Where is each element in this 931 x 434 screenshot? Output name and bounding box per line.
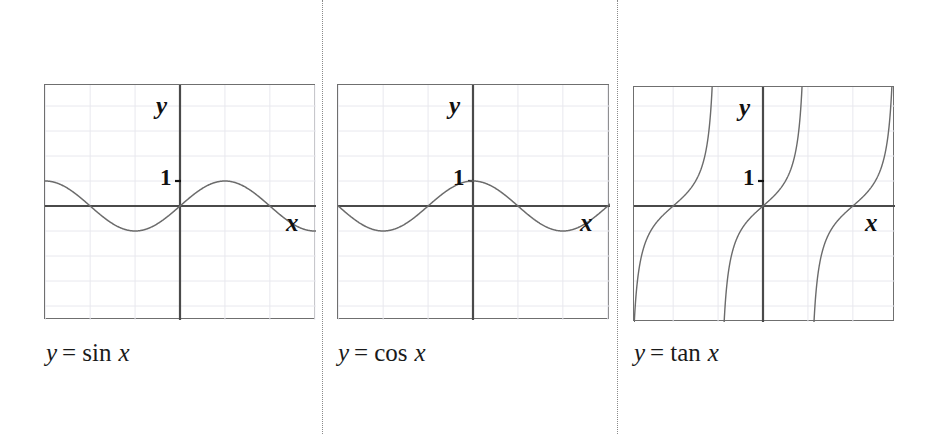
caption-sine-equals: = xyxy=(62,339,76,366)
y-tick-label-one-tangent: 1 xyxy=(743,166,755,189)
x-axis-label-tangent: x xyxy=(865,210,878,235)
caption-sine: y=sinx xyxy=(46,340,130,365)
plot-svg-sine xyxy=(45,85,316,320)
caption-cosine-equals: = xyxy=(354,339,368,366)
y-axis-label-sine: y xyxy=(156,93,167,118)
caption-tangent: y=tanx xyxy=(634,340,719,365)
y-tick-label-one-sine: 1 xyxy=(160,166,172,189)
caption-cosine-y: y xyxy=(338,339,349,366)
y-axis-label-tangent: y xyxy=(739,95,750,120)
caption-tangent-equals: = xyxy=(650,339,664,366)
caption-sine-x: x xyxy=(118,339,129,366)
caption-sine-y: y xyxy=(46,339,57,366)
caption-tangent-x: x xyxy=(708,339,719,366)
x-axis-label-sine: x xyxy=(286,210,299,235)
caption-cosine: y=cosx xyxy=(338,340,426,365)
plot-svg-tangent xyxy=(634,87,895,322)
caption-tangent-y: y xyxy=(634,339,645,366)
caption-sine-fn: sin xyxy=(82,339,111,366)
panel-separator-2 xyxy=(617,0,618,434)
caption-cosine-fn: cos xyxy=(374,339,407,366)
caption-cosine-x: x xyxy=(415,339,426,366)
panel-separator-1 xyxy=(322,0,323,434)
y-tick-label-one-cosine: 1 xyxy=(453,166,465,189)
trig-graphs-figure: y x 1 y x 1 y x 1 y=sinx y=cosx y=tanx xyxy=(0,0,931,434)
plot-frame-sine: y x 1 xyxy=(44,84,315,319)
x-axis-label-cosine: x xyxy=(580,210,593,235)
plot-frame-tangent: y x 1 xyxy=(633,86,894,321)
y-axis-label-cosine: y xyxy=(449,93,460,118)
caption-tangent-fn: tan xyxy=(670,339,701,366)
plot-frame-cosine: y x 1 xyxy=(337,84,609,319)
plot-svg-cosine xyxy=(338,85,610,320)
